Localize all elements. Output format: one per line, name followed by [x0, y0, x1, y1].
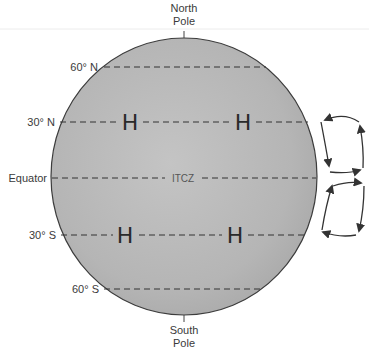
- latitude-label-60s: 60° S: [72, 283, 99, 295]
- cell-arrow-left: [321, 122, 329, 166]
- south-pole-label-line1: South: [170, 324, 199, 336]
- cell-arrow-right: [359, 186, 364, 231]
- high-pressure-30s-east: H: [227, 223, 244, 248]
- south-pole-label-line2: Pole: [173, 337, 195, 349]
- itcz-label: ITCZ: [172, 173, 194, 184]
- high-pressure-30n-west: H: [122, 110, 139, 135]
- cell-arrow-top: [333, 182, 361, 186]
- global-pressure-diagram: North Pole South Pole 60° N 30° N Equato…: [0, 0, 369, 355]
- northern-circulation-cell: [321, 116, 363, 172]
- latitude-label-equator: Equator: [8, 172, 47, 184]
- cell-arrow-top: [325, 116, 359, 122]
- north-pole-label-line2: Pole: [173, 15, 195, 27]
- high-pressure-30s-west: H: [117, 223, 134, 248]
- southern-circulation-cell: [322, 182, 364, 236]
- latitude-label-60n: 60° N: [70, 61, 98, 73]
- north-pole-label-line1: North: [171, 2, 198, 14]
- cell-arrow-right: [360, 126, 363, 168]
- cell-arrow-left: [322, 186, 332, 230]
- cell-arrow-bottom: [323, 232, 356, 236]
- latitude-label-30s: 30° S: [29, 229, 56, 241]
- high-pressure-30n-east: H: [235, 110, 252, 135]
- cell-arrow-bottom: [330, 170, 360, 173]
- latitude-label-30n: 30° N: [27, 116, 55, 128]
